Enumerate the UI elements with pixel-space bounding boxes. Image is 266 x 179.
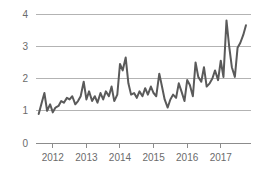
x-tick-label: 2017: [210, 152, 233, 163]
chart-canvas: 01234 201220132014201520162017: [0, 0, 266, 179]
x-axis-tick-labels: 201220132014201520162017: [42, 152, 233, 163]
y-tick-label: 0: [22, 138, 28, 149]
y-tick-label: 2: [22, 73, 28, 84]
line-chart: 01234 201220132014201520162017: [0, 0, 266, 179]
x-tick-label: 2015: [142, 152, 165, 163]
y-tick-label: 4: [22, 9, 28, 20]
y-axis-tick-labels: 01234: [22, 9, 28, 149]
x-tick-label: 2013: [75, 152, 98, 163]
y-tick-label: 3: [22, 41, 28, 52]
x-tick-label: 2014: [109, 152, 132, 163]
y-tick-label: 1: [22, 105, 28, 116]
data-series-line: [39, 20, 246, 114]
x-tick-label: 2012: [42, 152, 65, 163]
x-axis: [36, 143, 251, 148]
x-tick-label: 2016: [176, 152, 199, 163]
